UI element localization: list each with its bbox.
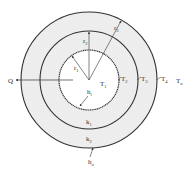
- ho-arrow: [90, 148, 93, 157]
- q-label: Q: [8, 77, 13, 85]
- composite-cylinder-diagram: Q r1 r2 r3 T1 T2 T3 T4 To hi k1 k2 ho: [0, 0, 193, 175]
- t-ambient-label: To: [176, 77, 183, 86]
- ho-label: ho: [88, 158, 95, 167]
- t4-label: T4: [161, 75, 168, 84]
